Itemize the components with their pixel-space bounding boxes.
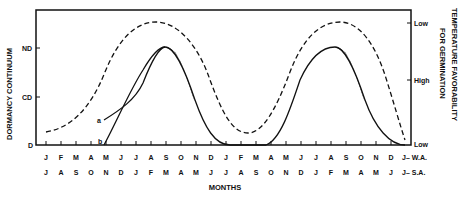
- y-tick-d: D: [28, 142, 33, 149]
- x-axis-title: MONTHS: [209, 183, 242, 192]
- svg-text:N: N: [373, 154, 378, 161]
- svg-text:A: A: [178, 169, 183, 176]
- y-right-title-1: TEMPERATURE FAVORABILITY: [450, 8, 459, 121]
- svg-text:A: A: [268, 154, 273, 161]
- svg-text:O: O: [178, 154, 184, 161]
- svg-text:M: M: [373, 169, 379, 176]
- svg-text:A: A: [238, 169, 243, 176]
- annotation-a: a: [97, 117, 101, 124]
- svg-text:J: J: [134, 154, 138, 161]
- svg-text:M: M: [163, 169, 169, 176]
- svg-text:A: A: [148, 154, 153, 161]
- svg-text:A: A: [88, 154, 93, 161]
- svg-text:A: A: [328, 154, 333, 161]
- svg-text:N: N: [283, 169, 288, 176]
- svg-text:D: D: [208, 154, 213, 161]
- svg-text:J: J: [299, 154, 303, 161]
- y-right-title-2: FOR GERMINATION: [438, 28, 447, 99]
- svg-text:N: N: [193, 154, 198, 161]
- shaded-region-1: [165, 47, 195, 102]
- x-row-wa: JFMAMJ JASOND JFMAMJ JASOND: [44, 154, 393, 161]
- svg-text:D: D: [298, 169, 303, 176]
- svg-text:F: F: [329, 169, 334, 176]
- chart: ND CD D Low High Low DORMANCY CONTINUUM …: [0, 0, 468, 200]
- svg-text:J: J: [119, 154, 123, 161]
- y-axis-title: DORMANCY CONTINUUM: [5, 48, 14, 140]
- x-row-sa: JASOND JFMAMJ JASOND JFMAMJ: [44, 169, 393, 176]
- svg-text:A: A: [358, 169, 363, 176]
- svg-text:S: S: [164, 154, 169, 161]
- shaded-region-2: [335, 47, 365, 102]
- y-tick-cd: CD: [22, 94, 32, 101]
- svg-text:J: J: [209, 169, 213, 176]
- svg-text:O: O: [358, 154, 364, 161]
- y-right-high: High: [414, 77, 430, 85]
- annotation-b: b: [98, 138, 102, 145]
- svg-text:M: M: [73, 154, 79, 161]
- svg-text:J: J: [224, 154, 228, 161]
- svg-text:J: J: [134, 169, 138, 176]
- svg-text:S: S: [344, 154, 349, 161]
- svg-text:S: S: [254, 169, 259, 176]
- svg-text:F: F: [239, 154, 244, 161]
- svg-text:M: M: [253, 154, 259, 161]
- y-right-low-bottom: Low: [414, 141, 429, 148]
- svg-text:J: J: [389, 169, 393, 176]
- dormancy-curve-b: [104, 47, 405, 145]
- y-tick-nd: ND: [22, 45, 32, 52]
- svg-text:D: D: [388, 154, 393, 161]
- svg-text:A: A: [58, 169, 63, 176]
- svg-text:M: M: [103, 154, 109, 161]
- svg-text:J: J: [314, 169, 318, 176]
- svg-text:F: F: [59, 154, 64, 161]
- y-right-low-top: Low: [414, 20, 429, 27]
- svg-text:J: J: [44, 154, 48, 161]
- svg-text:D: D: [118, 169, 123, 176]
- svg-text:O: O: [268, 169, 274, 176]
- svg-text:N: N: [103, 169, 108, 176]
- svg-text:J: J: [44, 169, 48, 176]
- svg-text:J: J: [314, 154, 318, 161]
- svg-text:M: M: [283, 154, 289, 161]
- svg-text:O: O: [88, 169, 94, 176]
- svg-text:F: F: [149, 169, 154, 176]
- svg-text:S: S: [74, 169, 79, 176]
- svg-text:M: M: [343, 169, 349, 176]
- svg-text:M: M: [193, 169, 199, 176]
- svg-text:J: J: [224, 169, 228, 176]
- plot-frame: [36, 10, 411, 145]
- x-row-sa-label: J– S.A.: [402, 169, 425, 176]
- x-row-wa-label: J– W.A.: [402, 154, 427, 161]
